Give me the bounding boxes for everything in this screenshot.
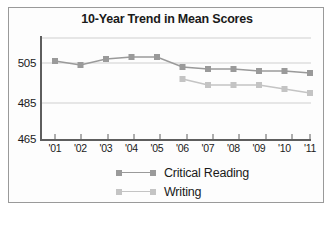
chart-legend: Critical Reading Writing: [0, 163, 334, 201]
x-axis-tick-label: '11: [297, 142, 323, 154]
data-point-marker: [256, 82, 262, 88]
data-point-marker: [180, 76, 186, 82]
legend-marker-icon: [150, 170, 156, 176]
x-axis-tick-label: '04: [119, 142, 145, 154]
legend-marker-icon: [116, 189, 122, 195]
legend-marker-icon: [116, 170, 122, 176]
data-point-marker: [231, 82, 237, 88]
data-point-marker: [205, 82, 211, 88]
x-axis-tick-label: '08: [221, 142, 247, 154]
data-point-marker: [78, 62, 84, 68]
legend-label-critical-reading: Critical Reading: [164, 166, 249, 180]
x-axis-tick-label: '01: [42, 142, 68, 154]
x-axis-tick-label: '05: [144, 142, 170, 154]
legend-marker-icon: [150, 189, 156, 195]
data-point-marker: [282, 68, 288, 74]
legend-swatch-writing: [116, 187, 156, 197]
x-axis-tick-label: '03: [93, 142, 119, 154]
x-axis-tick-label: '07: [195, 142, 221, 154]
legend-item-writing: Writing: [0, 182, 334, 201]
data-point-marker: [231, 66, 237, 72]
series-line: [183, 79, 311, 93]
data-point-marker: [205, 66, 211, 72]
legend-swatch-critical-reading: [116, 168, 156, 178]
data-series-layer: [52, 54, 313, 96]
x-axis-tick-label: '10: [272, 142, 298, 154]
x-axis-tick-label: '06: [170, 142, 196, 154]
data-point-marker: [52, 58, 58, 64]
legend-item-critical-reading: Critical Reading: [0, 163, 334, 182]
x-axis-tick-label: '09: [246, 142, 272, 154]
data-point-marker: [129, 54, 135, 60]
data-point-marker: [307, 70, 313, 76]
y-axis-label-465: 465: [6, 133, 36, 145]
data-point-marker: [103, 56, 109, 62]
data-point-marker: [180, 64, 186, 70]
data-point-marker: [307, 90, 313, 96]
axis-lines: [41, 36, 311, 141]
legend-label-writing: Writing: [164, 185, 201, 199]
data-point-marker: [256, 68, 262, 74]
y-axis-label-505: 505: [6, 57, 36, 69]
data-point-marker: [154, 54, 160, 60]
y-axis-label-485: 485: [6, 97, 36, 109]
x-axis-tick-label: '02: [68, 142, 94, 154]
data-point-marker: [282, 86, 288, 92]
